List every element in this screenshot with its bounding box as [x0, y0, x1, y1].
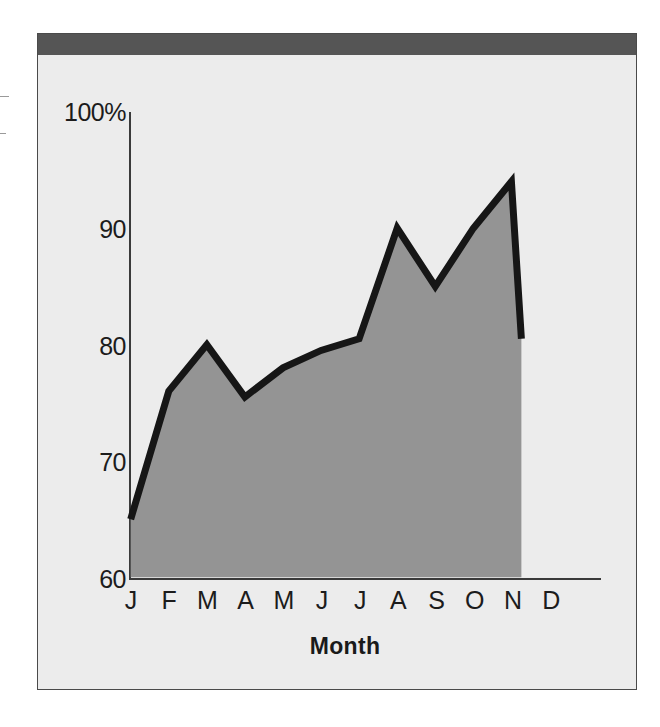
- x-axis-title-text: Month: [310, 633, 380, 659]
- x-tick-label-0: J: [125, 588, 138, 613]
- x-axis-tick-labels: JFMAMJJASOND: [38, 588, 636, 622]
- x-tick-label-3: A: [237, 588, 254, 613]
- x-tick-label-2: M: [197, 588, 218, 613]
- chart-header-bar: [38, 34, 636, 55]
- x-tick-label-4: M: [273, 588, 294, 613]
- x-tick-label-11: D: [542, 588, 560, 613]
- x-tick-label-5: J: [316, 588, 329, 613]
- x-tick-label-8: S: [428, 588, 445, 613]
- x-tick-label-6: J: [354, 588, 367, 613]
- x-tick-label-7: A: [390, 588, 407, 613]
- x-tick-label-1: F: [162, 588, 177, 613]
- plot-surface: 100%90807060 JFMAMJJASOND Month: [38, 55, 636, 689]
- chart-frame: 100%90807060 JFMAMJJASOND Month: [37, 33, 637, 690]
- x-axis-title: Month: [38, 633, 636, 660]
- page-edge-mark-top: [0, 96, 9, 97]
- x-tick-label-9: O: [465, 588, 484, 613]
- x-tick-label-10: N: [504, 588, 522, 613]
- page-edge-mark-lower: [0, 133, 6, 134]
